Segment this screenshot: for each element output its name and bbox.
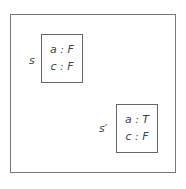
state-s-var-c: c : F	[42, 61, 82, 73]
state-label-s-prime: s′	[99, 123, 107, 135]
state-s-var-a: a : F	[42, 44, 82, 56]
state-s-prime-var-c: c : F	[117, 131, 157, 143]
state-label-s: s	[29, 55, 35, 67]
state-box-s: a : F c : F	[41, 34, 83, 83]
state-box-s-prime: a : T c : F	[116, 104, 158, 153]
state-s-prime-var-a: a : T	[117, 114, 157, 126]
